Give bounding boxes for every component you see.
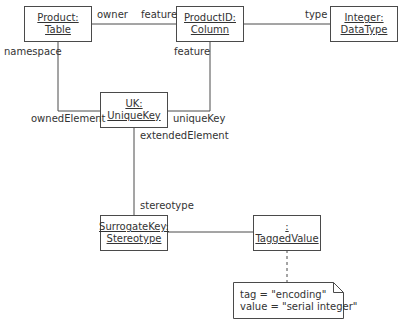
object-name: SurrogateKey:	[99, 221, 169, 233]
label-feature-right: feature	[174, 46, 210, 58]
note-line-tag: tag = "encoding"	[240, 289, 344, 301]
object-name: UK:	[125, 98, 142, 110]
productid-column-object[interactable]: ProductID: Column	[176, 6, 244, 42]
product-table-object[interactable]: Product: Table	[24, 6, 92, 42]
label-unique-key: uniqueKey	[173, 113, 225, 125]
label-feature-top: feature	[141, 9, 177, 21]
object-name: :	[285, 221, 288, 233]
integer-datatype-object[interactable]: Integer: DataType	[330, 6, 398, 42]
tagged-value-note[interactable]: tag = "encoding" value = "serial integer…	[233, 282, 344, 319]
label-extended-element: extendedElement	[140, 130, 229, 142]
label-owned-element: ownedElement	[31, 113, 106, 125]
namespace-link	[58, 41, 100, 111]
label-owner: owner	[97, 9, 128, 21]
label-stereotype: stereotype	[140, 200, 194, 212]
note-line-value: value = "serial integer"	[240, 301, 344, 313]
object-type: TaggedValue	[255, 233, 318, 245]
object-name: Integer:	[344, 12, 383, 24]
label-namespace: namespace	[4, 46, 62, 58]
surrogatekey-stereotype-object[interactable]: SurrogateKey: Stereotype	[100, 215, 168, 251]
uk-uniquekey-object[interactable]: UK: UniqueKey	[100, 92, 168, 128]
object-type: Stereotype	[107, 233, 162, 245]
object-type: DataType	[341, 24, 388, 36]
uml-object-diagram: Product: Table ProductID: Column Integer…	[0, 0, 402, 322]
label-type: type	[305, 9, 327, 21]
object-type: UniqueKey	[107, 110, 160, 122]
object-name: Product:	[37, 12, 78, 24]
taggedvalue-object[interactable]: : TaggedValue	[253, 215, 321, 251]
object-name: ProductID:	[184, 12, 236, 24]
object-type: Column	[191, 24, 229, 36]
object-type: Table	[45, 24, 71, 36]
